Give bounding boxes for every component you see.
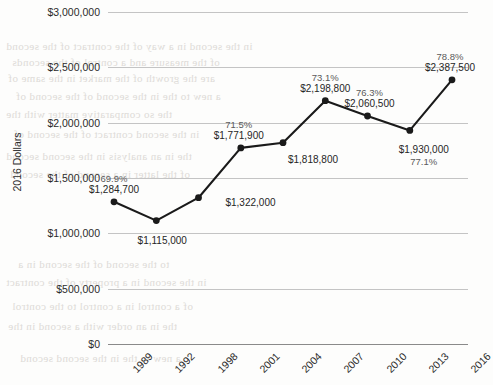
data-point-2007 [322,97,329,104]
data-point-2010 [364,113,371,120]
value-label-1992: $1,115,000 [138,235,187,246]
percent-label-2013: 77.1% [410,156,437,167]
value-label-2007: $2,198,800 [300,83,350,94]
value-label-2016: $2,387,500 [425,62,475,73]
percent-label-2016: 78.8% [437,51,464,62]
percent-label-2010: 76.3% [356,87,383,98]
percent-label-1989: 69.9% [101,173,128,184]
value-label-2010: $2,060,500 [344,98,394,109]
value-label-2013: $1,930,000 [399,144,449,155]
data-point-2001 [237,145,244,152]
data-point-1998 [195,194,202,201]
data-point-1989 [111,198,118,205]
data-point-1992 [153,217,160,224]
value-label-2004: $1,818,800 [288,154,338,165]
percent-label-2001: 71.5% [225,119,252,130]
data-point-2013 [406,127,413,134]
percent-label-2007: 73.1% [312,72,339,83]
data-point-2004 [280,139,287,146]
value-label-2001: $1,771,900 [214,130,264,141]
value-label-1989: $1,284,700 [89,184,139,195]
value-label-1998: $1,322,000 [225,197,275,208]
data-point-2016 [449,76,456,83]
